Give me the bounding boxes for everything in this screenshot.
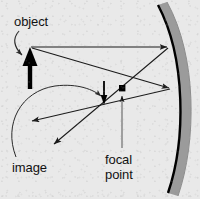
reflected-ray-through-focus	[54, 48, 168, 144]
object-arrow-head	[23, 47, 38, 66]
focal-point-dot	[119, 85, 125, 91]
object-label: object	[14, 14, 48, 29]
mirror-ray-diagram: object image focal point	[0, 0, 200, 199]
image-label: image	[12, 160, 47, 175]
incident-rays	[31, 47, 169, 88]
object-label-pointer-curve	[15, 31, 22, 55]
incident-ray-through-center	[32, 48, 169, 88]
image-arrow	[101, 81, 108, 105]
image-label-pointer-curve	[12, 85, 101, 157]
reflected-ray-to-image	[32, 89, 170, 121]
focal-point-label-line2: point	[105, 167, 133, 182]
focal-point-label-line1: focal	[105, 152, 132, 167]
concave-mirror	[158, 2, 191, 196]
object-arrow	[23, 47, 38, 89]
